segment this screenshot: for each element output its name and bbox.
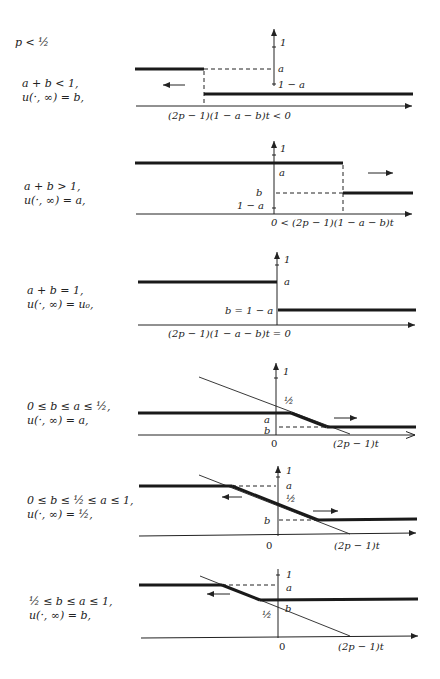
label-1: 1: [286, 569, 292, 580]
x-label: 0 < (2p − 1)(1 − a − b)t: [271, 217, 395, 228]
x-label: (2p − 1)(1 − a − b)t < 0: [168, 110, 291, 121]
label-a: a: [278, 63, 284, 74]
origin-label: 0: [279, 641, 285, 652]
label-1: 1: [280, 143, 286, 154]
label-1: 1: [283, 366, 289, 377]
label-1: 1: [280, 37, 286, 48]
label-half: ½: [286, 493, 296, 504]
label-a: a: [279, 167, 285, 178]
label-a: a: [284, 276, 290, 287]
characteristic-line: [199, 475, 350, 534]
right-state-b: [318, 519, 417, 520]
rarefaction-slope: [291, 413, 327, 427]
x-label: (2p − 1)t: [338, 641, 385, 652]
label-1-minus-a: 1 − a: [237, 200, 264, 211]
label-b: b: [256, 187, 262, 198]
x-axis: [141, 636, 418, 638]
label-1: 1: [284, 254, 290, 265]
label-half: ½: [262, 609, 272, 620]
label-a: a: [286, 480, 292, 491]
panel-3-plot: 1 a b = 1 − a (2p − 1)(1 − a − b)t = 0: [138, 252, 416, 339]
origin-label: 0: [271, 438, 277, 449]
label-b: b: [264, 515, 270, 526]
origin-label: 0: [266, 540, 272, 551]
label-1-minus-a: 1 − a: [278, 79, 305, 90]
label-b-eq-1-minus-a: b = 1 − a: [225, 305, 273, 316]
rarefaction-slope: [232, 486, 318, 520]
label-a: a: [286, 582, 292, 593]
rarefaction-slope: [222, 585, 260, 600]
panel-6-plot: 1 a b ½ 0 (2p − 1)t: [139, 569, 418, 652]
characteristic-line: [199, 377, 350, 434]
label-1: 1: [286, 465, 292, 476]
label-a: a: [264, 414, 270, 425]
panel-2-plot: 1 a b 1 − a 0 < (2p − 1)(1 − a − b)t: [135, 141, 413, 228]
panel-4-plot: 1 ½ a b 0 (2p − 1)t: [138, 363, 416, 449]
label-b: b: [285, 603, 291, 614]
x-label: (2p − 1)(1 − a − b)t = 0: [168, 328, 291, 339]
label-half: ½: [284, 395, 294, 406]
x-label: (2p − 1)t: [334, 540, 381, 551]
panel-1-plot: 1 a 1 − a (2p − 1)(1 − a − b)t < 0: [135, 29, 413, 121]
panel-5-plot: 1 a ½ b 0 (2p − 1)t: [139, 465, 417, 551]
right-state-b: [260, 599, 418, 600]
riemann-solution-diagrams: 1 a 1 − a (2p − 1)(1 − a − b)t < 0 1 a b…: [0, 0, 440, 679]
label-b: b: [264, 425, 270, 436]
x-label: (2p − 1)t: [333, 438, 380, 449]
